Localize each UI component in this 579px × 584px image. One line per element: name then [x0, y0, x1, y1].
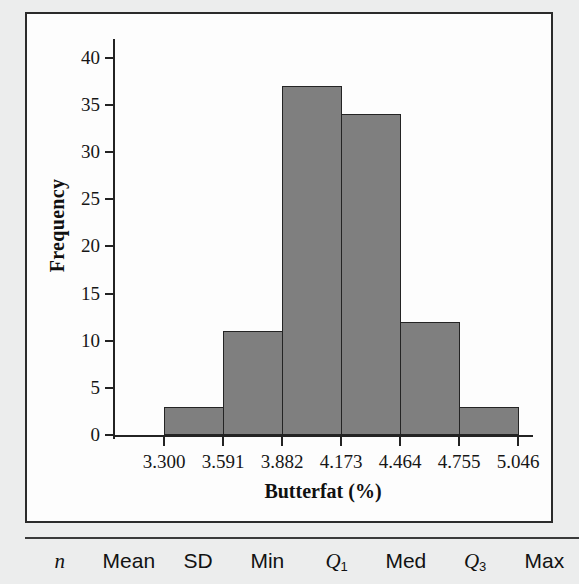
histogram-bar	[341, 114, 401, 435]
y-axis-line	[113, 39, 115, 439]
x-axis-tick	[281, 436, 283, 446]
table-header-cell: Q1	[302, 549, 371, 574]
histogram-bar	[164, 407, 224, 435]
y-axis-tick	[105, 245, 114, 247]
y-axis-tick-label: 5	[58, 378, 100, 397]
y-axis-tick-label: 25	[58, 189, 100, 208]
table-header-subscript: 3	[479, 559, 486, 574]
y-axis-tick	[105, 104, 114, 106]
y-axis-tick-label: 40	[58, 48, 100, 67]
table-top-rule	[25, 537, 579, 539]
x-axis-tick	[340, 436, 342, 446]
y-axis-tick-label: 0	[58, 425, 100, 444]
histogram-bar	[459, 407, 519, 435]
x-axis-tick	[517, 436, 519, 446]
table-header-cell: Max	[510, 549, 579, 573]
table-header-subscript: 1	[341, 559, 348, 574]
y-axis-tick	[105, 434, 114, 436]
y-axis-tick	[105, 151, 114, 153]
x-axis-tick	[163, 436, 165, 446]
histogram-plot: Frequency 0510152025303540 3.3003.5913.8…	[27, 14, 551, 521]
y-axis-tick	[105, 198, 114, 200]
table-header-cell: SD	[164, 549, 233, 573]
y-axis-tick-label: 30	[58, 142, 100, 161]
table-header-cell: Min	[233, 549, 302, 573]
y-axis-tick	[105, 340, 114, 342]
x-axis-line	[113, 435, 533, 437]
histogram-bar	[400, 322, 460, 435]
y-axis-tick-label: 35	[58, 95, 100, 114]
table-header-row: nMeanSDMinQ1MedQ3Max	[25, 549, 579, 574]
histogram-bar	[282, 86, 342, 435]
x-axis-tick-label: 5.046	[478, 451, 558, 473]
histogram-bar	[223, 331, 283, 435]
clipped-top-text	[0, 0, 579, 7]
table-header-cell: Mean	[94, 549, 163, 573]
y-axis-tick	[105, 293, 114, 295]
y-axis-tick	[105, 57, 114, 59]
x-axis-tick	[399, 436, 401, 446]
table-header-cell: Q3	[441, 549, 510, 574]
x-axis-title: Butterfat (%)	[113, 480, 533, 503]
y-axis-tick	[105, 387, 114, 389]
figure-frame: Frequency 0510152025303540 3.3003.5913.8…	[25, 12, 553, 523]
y-axis-tick-label: 20	[58, 236, 100, 255]
table-header-cell: n	[25, 549, 94, 574]
stats-table: nMeanSDMinQ1MedQ3Max	[25, 537, 579, 584]
x-axis-tick	[222, 436, 224, 446]
y-axis-tick-label: 10	[58, 331, 100, 350]
x-axis-tick	[458, 436, 460, 446]
y-axis-tick-label: 15	[58, 284, 100, 303]
table-header-cell: Med	[371, 549, 440, 573]
